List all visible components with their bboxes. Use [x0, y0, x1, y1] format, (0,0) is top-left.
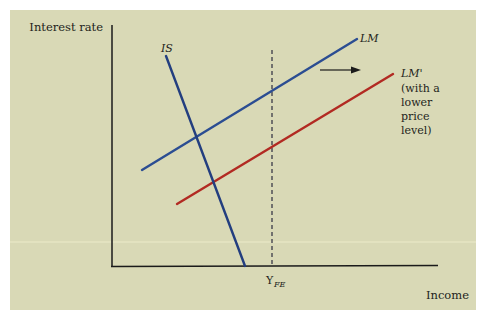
y-axis-label: Interest rate	[29, 20, 103, 34]
lm-label: LM	[359, 32, 379, 45]
lm-prime-curve	[177, 74, 393, 204]
yfe-subscript: FE	[273, 280, 286, 289]
is-curve	[166, 56, 245, 266]
shift-arrow-icon	[320, 67, 361, 74]
lm-curve	[142, 39, 357, 170]
lm-prime-note-3: price	[401, 110, 430, 123]
is-label: IS	[160, 42, 173, 55]
lm-prime-note-4: level)	[401, 124, 432, 137]
yfe-main: Y	[265, 274, 274, 287]
lm-prime-note-1: (with a	[401, 82, 440, 95]
x-axis-label: Income	[426, 288, 469, 302]
x-axis	[111, 266, 438, 267]
islm-diagram: Interest rate Income IS LM LM' (with a l…	[0, 0, 488, 322]
lm-prime-note-2: lower	[401, 96, 433, 109]
yfe-label: Y FE	[265, 274, 286, 289]
lm-prime-label: LM'	[400, 67, 423, 80]
